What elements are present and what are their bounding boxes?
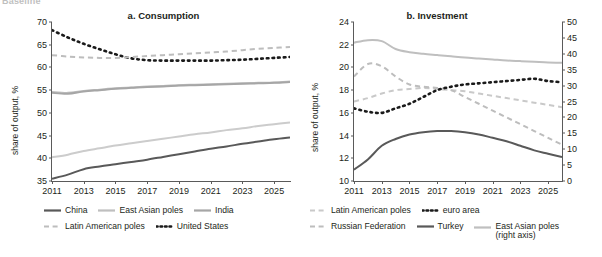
y-tick-mark (49, 90, 52, 91)
legend-line-swatch (44, 206, 61, 215)
legend-label: East Asian poles (119, 206, 183, 215)
y-tick-mark-right (562, 181, 565, 182)
x-tick-mark (382, 181, 383, 184)
y-tick-mark (49, 22, 52, 23)
legend-label: Turkey (438, 222, 464, 231)
figure-baseline-shares: Baseline a. Consumption share of output,… (0, 0, 602, 257)
y-tick-mark (351, 135, 354, 136)
legend-line-swatch (44, 222, 61, 231)
legend-item[interactable]: Latin American poles (310, 206, 411, 215)
panel-b-ylabel: share of output, % (310, 83, 320, 152)
legend-item[interactable]: United States (156, 222, 229, 231)
legend-item[interactable]: China (44, 206, 87, 215)
legend-line-swatch (422, 206, 439, 215)
legend-label: United States (177, 222, 229, 231)
y-tick-mark (49, 67, 52, 68)
legend-consumption: ChinaEast Asian polesIndiaLatin American… (44, 206, 300, 238)
legend-item[interactable]: euro area (422, 206, 480, 215)
y-tick-mark-right (562, 69, 565, 70)
x-tick-mark (465, 181, 466, 184)
legend-a-row: ChinaEast Asian polesIndia (44, 206, 300, 215)
x-tick-mark (274, 181, 275, 184)
x-tick-mark (115, 181, 116, 184)
legend-b-row: Russian FederationTurkeyEast Asian poles… (310, 222, 602, 239)
panel-b-series-svg (354, 22, 562, 181)
legend-line-swatch (417, 222, 434, 231)
y-tick-mark-right (562, 85, 565, 86)
series-line (52, 47, 290, 58)
x-tick-mark (354, 181, 355, 184)
x-tick-mark (52, 181, 53, 184)
legend-item[interactable]: East Asian poles (98, 206, 183, 215)
y-tick-mark (351, 158, 354, 159)
legend-item[interactable]: East Asian poles(right axis) (474, 222, 559, 239)
y-tick-mark (351, 44, 354, 45)
x-tick-mark (211, 181, 212, 184)
series-line (354, 131, 562, 170)
y-tick-mark-right (562, 22, 565, 23)
x-tick-mark (147, 181, 148, 184)
x-tick-mark (84, 181, 85, 184)
series-line (52, 122, 290, 157)
x-tick-mark (409, 181, 410, 184)
y-tick-mark (351, 22, 354, 23)
series-line (52, 82, 290, 94)
panel-a-series-svg (52, 22, 290, 181)
series-line (52, 137, 290, 178)
legend-b-row: Latin American poleseuro area (310, 206, 602, 215)
legend-item[interactable]: Latin American poles (44, 222, 145, 231)
legend-item[interactable]: India (194, 206, 234, 215)
panel-a-plot-area: 3540455055606570201120132015201720192021… (52, 22, 290, 181)
series-line (354, 88, 562, 107)
legend-line-swatch (156, 222, 173, 231)
legend-label: Latin American poles (331, 206, 411, 215)
y-tick-mark-right (562, 133, 565, 134)
y-tick-mark (351, 90, 354, 91)
y-tick-mark (49, 44, 52, 45)
series-line (354, 40, 562, 63)
legend-item[interactable]: Turkey (417, 222, 464, 231)
legend-label: China (65, 206, 87, 215)
legend-label: Russian Federation (331, 222, 406, 231)
y-tick-mark-right (562, 37, 565, 38)
y-tick-mark (351, 67, 354, 68)
x-tick-mark (548, 181, 549, 184)
series-line (52, 30, 290, 60)
panel-b-plot-area: 1012141618202224051015202530354045502011… (354, 22, 562, 181)
y-tick-mark (49, 135, 52, 136)
y-tick-mark (49, 112, 52, 113)
legend-investment: Latin American poleseuro areaRussian Fed… (310, 206, 602, 246)
legend-line-swatch (310, 222, 327, 231)
panel-consumption: a. Consumption share of output, % 354045… (0, 0, 301, 200)
legend-item[interactable]: Russian Federation (310, 222, 406, 231)
panel-investment: b. Investment share of output, % 1012141… (300, 0, 602, 200)
series-line (354, 79, 562, 113)
x-tick-mark (242, 181, 243, 184)
series-line (354, 63, 562, 144)
x-tick-mark (493, 181, 494, 184)
legend-label: East Asian poles(right axis) (495, 222, 559, 239)
y-tick-mark-right (562, 149, 565, 150)
legend-line-swatch (98, 206, 115, 215)
y-tick-mark-right (562, 117, 565, 118)
legend-line-swatch (194, 206, 211, 215)
y-tick-mark (351, 112, 354, 113)
legend-a-row: Latin American polesUnited States (44, 222, 300, 231)
legend-label: India (215, 206, 234, 215)
y-tick-mark-right (562, 165, 565, 166)
legend-label: Latin American poles (65, 222, 145, 231)
x-tick-mark (437, 181, 438, 184)
y-tick-mark-right (562, 53, 565, 54)
x-tick-mark (179, 181, 180, 184)
legend-line-swatch (474, 223, 491, 232)
legend-sublabel: (right axis) (495, 231, 559, 240)
x-tick-mark (520, 181, 521, 184)
legend-label: euro area (443, 206, 480, 215)
panel-a-ylabel: share of output, % (10, 86, 20, 155)
y-tick-mark (49, 158, 52, 159)
legend-line-swatch (310, 206, 327, 215)
y-tick-mark-right (562, 101, 565, 102)
